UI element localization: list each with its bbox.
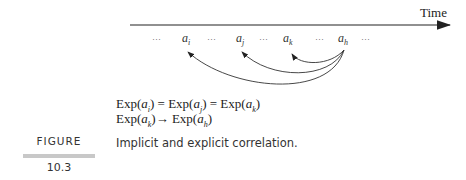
svg-text:···: ··· xyxy=(315,34,324,44)
formula-text: )→ Exp( xyxy=(151,111,197,126)
label-a-k: ak xyxy=(283,31,293,47)
svg-text:···: ··· xyxy=(152,34,161,44)
sequence-labels: ··· ai ··· aj ··· ak ··· ah ··· xyxy=(152,31,370,47)
formula-text: Exp( xyxy=(116,111,141,126)
svg-text:···: ··· xyxy=(207,34,216,44)
timeline-diagram: ··· ai ··· aj ··· ak ··· ah ··· Time xyxy=(0,0,466,95)
figure-caption: Implicit and explicit correlation. xyxy=(116,136,298,150)
time-axis-label: Time xyxy=(420,5,447,21)
formula-text: Exp( xyxy=(116,96,141,111)
svg-text:···: ··· xyxy=(259,34,268,44)
formula-explicit: Exp(ak)→ Exp(ah) xyxy=(116,111,212,129)
formula-text: ) = Exp( xyxy=(202,96,245,111)
label-a-j: aj xyxy=(236,31,245,47)
arrow-h-to-j xyxy=(242,50,344,73)
label-a-i: ai xyxy=(182,31,190,47)
timeline-svg: ··· ai ··· aj ··· ak ··· ah ··· xyxy=(0,0,466,95)
figure-number: 10.3 xyxy=(22,161,96,174)
label-a-h: ah xyxy=(338,31,348,47)
formula-text: ) = Exp( xyxy=(150,96,193,111)
formula-text: ) xyxy=(208,111,212,126)
formula-text: ) xyxy=(256,96,260,111)
correlation-arrows xyxy=(188,50,344,84)
svg-text:···: ··· xyxy=(361,34,370,44)
figure-divider xyxy=(23,154,95,158)
figure-label: FIGURE xyxy=(22,135,96,147)
